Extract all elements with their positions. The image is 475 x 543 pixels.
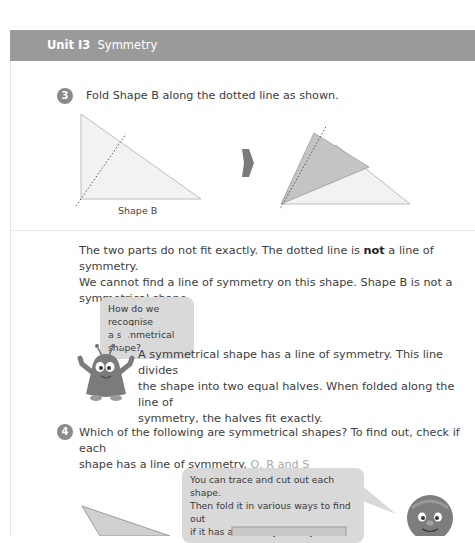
tip-bubble-tail	[360, 480, 400, 520]
shape-rectangle-partial	[230, 526, 350, 536]
definition-line-1: A symmetrical shape has a line of symmet…	[138, 347, 473, 379]
unit-name: Symmetry	[98, 38, 158, 52]
tip-line-2: Then fold it in various ways to find out	[190, 499, 356, 525]
tip-line-1: You can trace and cut out each shape.	[190, 473, 356, 499]
shape-p-partial	[60, 500, 180, 536]
right-arrow-icon	[240, 145, 256, 181]
bubble-line-1: How do we recognise	[108, 302, 186, 328]
shape-b-figure	[70, 110, 220, 210]
page-edge	[10, 30, 11, 536]
explanation-line-2: We cannot find a line of symmetry on thi…	[79, 275, 469, 291]
question-4-line-1: Which of the following are symmetrical s…	[79, 425, 474, 457]
symmetry-definition: A symmetrical shape has a line of symmet…	[138, 347, 473, 427]
question-4-prompt: Which of the following are symmetrical s…	[79, 425, 474, 473]
ball-mascot-icon	[400, 490, 460, 536]
monster-mascot-icon	[76, 338, 138, 406]
definition-line-2: the shape into two equal halves. When fo…	[138, 379, 473, 411]
question-3-prompt: Fold Shape B along the dotted line as sh…	[86, 88, 339, 104]
unit-label: Unit I3	[47, 38, 90, 52]
unit-title: Unit I3 Symmetry	[47, 38, 157, 52]
section-divider	[10, 230, 475, 231]
folded-shape-figure	[280, 125, 420, 225]
shape-b-caption: Shape B	[118, 205, 157, 216]
question-4-badge: 4	[57, 424, 73, 440]
explanation-line-1: The two parts do not fit exactly. The do…	[79, 243, 469, 275]
question-3-badge: 3	[57, 88, 73, 104]
